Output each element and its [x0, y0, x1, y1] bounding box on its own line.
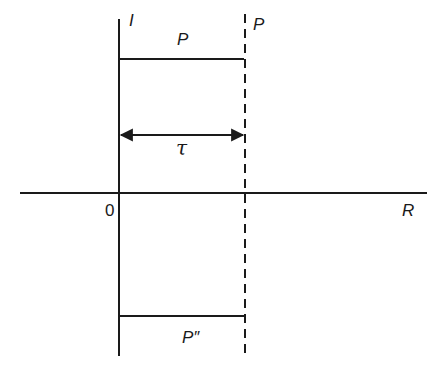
origin-label: 0 — [105, 202, 114, 219]
axis-label-i: I — [129, 12, 134, 29]
label-top-p: P — [177, 31, 188, 48]
label-bottom-p-double-prime: P″ — [182, 329, 199, 346]
label-tau: τ — [176, 138, 187, 158]
diagram-svg — [0, 0, 442, 375]
label-dashed-p: P — [253, 16, 264, 33]
axis-label-r: R — [402, 202, 414, 219]
diagram: I P P τ 0 R P″ — [0, 0, 442, 375]
